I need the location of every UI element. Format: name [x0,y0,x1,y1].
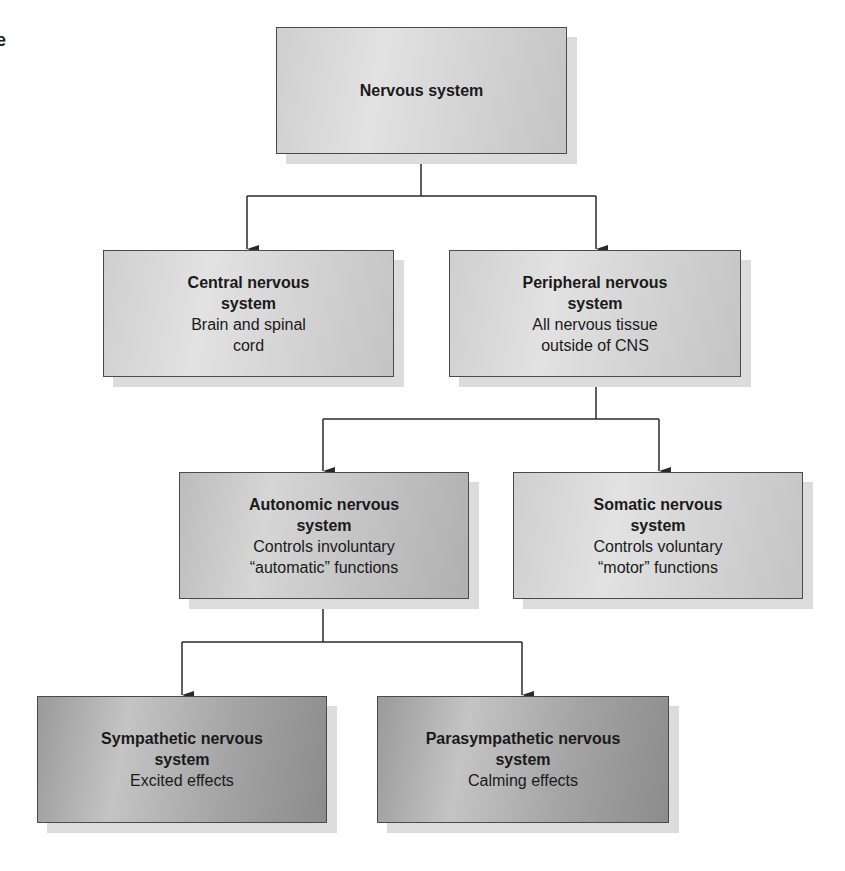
node-description: Brain and spinal [191,314,306,335]
node-title: system [495,749,550,770]
node-description: All nervous tissue [532,314,657,335]
node-title: system [221,293,276,314]
node-title: system [567,293,622,314]
node-central-nervous-system: Central nervous system Brain and spinal … [103,250,394,377]
node-peripheral-nervous-system: Peripheral nervous system All nervous ti… [449,250,741,377]
node-title: Somatic nervous [594,494,723,515]
node-description: outside of CNS [541,335,649,356]
node-description: “motor” functions [598,557,718,578]
node-parasympathetic-nervous-system: Parasympathetic nervous system Calming e… [377,696,669,823]
node-title: Central nervous [188,272,310,293]
node-description: cord [233,335,264,356]
node-title: system [296,515,351,536]
node-nervous-system: Nervous system [276,27,567,154]
node-autonomic-nervous-system: Autonomic nervous system Controls involu… [179,472,469,599]
node-description: Excited effects [130,770,234,791]
node-description: Controls involuntary [253,536,394,557]
node-title: Autonomic nervous [249,494,399,515]
node-title: Nervous system [360,80,484,101]
node-title: Peripheral nervous [523,272,668,293]
node-title: system [630,515,685,536]
node-description: Controls voluntary [594,536,723,557]
node-description: Calming effects [468,770,578,791]
node-description: “automatic” functions [250,557,399,578]
node-title: Sympathetic nervous [101,728,263,749]
node-sympathetic-nervous-system: Sympathetic nervous system Excited effec… [37,696,327,823]
node-somatic-nervous-system: Somatic nervous system Controls voluntar… [513,472,803,599]
node-title: Parasympathetic nervous [426,728,621,749]
node-title: system [154,749,209,770]
